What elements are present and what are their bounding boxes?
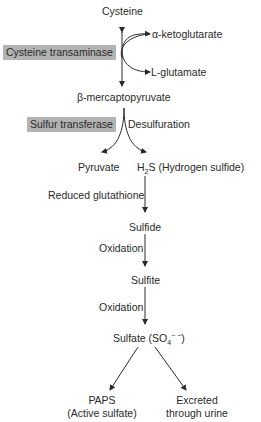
label-reduced-glutathione: Reduced glutathione	[48, 190, 144, 201]
node-l-glutamate: L-glutamate	[151, 67, 206, 78]
node-sulfate: Sulfate (SO4− −)	[113, 333, 185, 344]
node-cysteine: Cysteine	[102, 6, 143, 17]
label-desulfuration: Desulfuration	[128, 119, 190, 130]
sulfate-charge: − −	[171, 332, 181, 339]
paps-line1: PAPS	[66, 395, 138, 406]
node-alpha-ketoglutarate: α-ketoglutarate	[152, 29, 222, 40]
sulfate-subscript: 4	[167, 339, 171, 346]
sulfate-prefix: Sulfate (SO	[113, 332, 167, 344]
node-pyruvate: Pyruvate	[78, 162, 119, 173]
node-excreted: Excreted through urine	[161, 395, 233, 418]
h2s-suffix: S (Hydrogen sulfide)	[149, 161, 245, 173]
to-excreted-arrow	[155, 347, 186, 390]
to-paps-arrow	[110, 347, 138, 390]
sulfate-suffix: )	[181, 332, 185, 344]
enzyme-cysteine-transaminase: Cysteine transaminase	[3, 45, 116, 60]
paps-line2: (Active sulfate)	[66, 408, 138, 419]
h2s-prefix: H	[137, 161, 145, 173]
node-sulfite: Sulfite	[131, 275, 160, 286]
label-oxidation-1: Oxidation	[99, 243, 143, 254]
l-glutamate-arrow	[122, 50, 150, 72]
h2s-arrow	[124, 108, 146, 152]
node-sulfide: Sulfide	[129, 222, 161, 233]
node-paps: PAPS (Active sulfate)	[66, 395, 138, 418]
enzyme-sulfur-transferase: Sulfur transferase	[27, 117, 116, 132]
label-oxidation-2: Oxidation	[99, 302, 143, 313]
pathway-arrows	[0, 0, 261, 422]
node-beta-mercaptopyruvate: β-mercaptopyruvate	[77, 92, 171, 103]
node-h2s: H2S (Hydrogen sulfide)	[137, 162, 244, 173]
excreted-line2: through urine	[161, 408, 233, 419]
excreted-line1: Excreted	[161, 395, 233, 406]
